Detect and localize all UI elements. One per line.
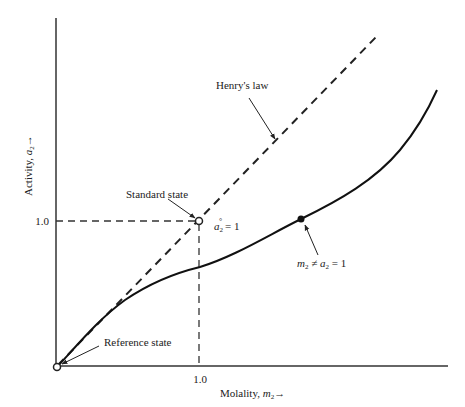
y-tick-label: 1.0	[35, 215, 49, 227]
unit-activity-arrow	[305, 225, 318, 255]
henrys-law-arrow	[249, 98, 275, 139]
y-axis-label: Activity, a2→	[22, 135, 36, 196]
unit-activity-label: m2 ≠ a2 = 1	[297, 257, 346, 271]
reference-state-label: Reference state	[104, 336, 172, 348]
unit-activity-point	[298, 216, 305, 223]
henrys-law-label: Henry's law	[216, 79, 268, 91]
activity-curve	[57, 90, 437, 367]
x-axis-label: Molality, m2→	[220, 387, 285, 401]
x-tick-label: 1.0	[193, 373, 207, 385]
standard-state-arrow	[168, 199, 195, 218]
standard-activity-label: a2° = 1	[214, 217, 239, 234]
activity-molality-diagram: 1.0 1.0 Molality, m2→ Activity, a2→ Henr…	[0, 0, 465, 407]
standard-state-label: Standard state	[126, 188, 188, 200]
standard-state-point	[196, 218, 203, 225]
reference-state-point	[54, 364, 61, 371]
